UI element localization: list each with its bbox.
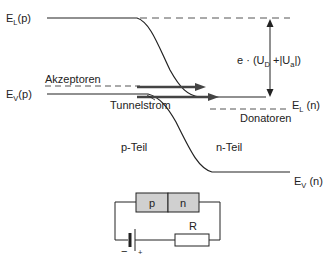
resistor: [175, 234, 209, 246]
el-n-label: EL (n): [292, 99, 320, 114]
conduction-band: [47, 18, 266, 97]
p-teil-label: p-Teil: [121, 141, 147, 153]
el-p-label: EL(p): [6, 12, 31, 27]
diode-n-label: n: [180, 197, 186, 209]
tunnel-diode-band-diagram: EL(p) EV(p) Akzeptoren Tunnelstrom EL (n…: [0, 0, 335, 266]
ev-p-label: EV(p): [6, 88, 32, 103]
akzeptoren-label: Akzeptoren: [45, 73, 101, 85]
donatoren-label: Donatoren: [240, 112, 291, 124]
circuit: p n − + R: [115, 193, 220, 257]
battery-plus-sign: +: [138, 248, 143, 257]
energy-formula: e · (UD +|Ua|): [237, 54, 301, 69]
ev-n-label: EV (n): [294, 175, 323, 190]
tunnelstrom-label: Tunnelstrom: [110, 99, 171, 111]
resistor-label: R: [189, 220, 197, 232]
diode-p-label: p: [149, 197, 155, 209]
battery-minus-sign: −: [121, 245, 127, 257]
n-teil-label: n-Teil: [216, 141, 242, 153]
